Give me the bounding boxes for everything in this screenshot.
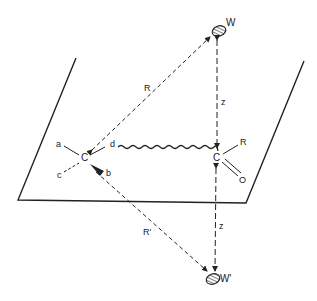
water-top-icon [211, 24, 228, 38]
wavy-chain [118, 146, 218, 152]
label-a: a [56, 140, 61, 149]
label-carbon-right: C [213, 153, 220, 163]
water-bottom-icon [205, 272, 222, 286]
bond-a [64, 146, 79, 155]
label-z-top: z [221, 98, 226, 107]
label-c: c [57, 171, 62, 180]
bond-R [223, 145, 238, 154]
distance-R-line [92, 37, 210, 150]
bond-c [64, 163, 79, 172]
label-distance-R-prime: R' [143, 228, 151, 237]
label-b: b [106, 169, 111, 178]
bond-d [90, 147, 105, 155]
label-carbon-left: C [81, 153, 88, 163]
distance-z-bottom-line [215, 168, 216, 271]
label-O: O [239, 176, 246, 185]
label-z-bottom: z [219, 222, 224, 231]
plane-outline [18, 58, 304, 203]
bond-O-1 [222, 162, 238, 176]
label-distance-R: R [144, 84, 151, 93]
label-R-substituent: R [240, 138, 247, 147]
diagram-graphics [0, 0, 317, 301]
label-W: W [226, 18, 235, 28]
diagram-canvas: W W' C C a b c d R O R R' z z [0, 0, 317, 301]
bond-O-2 [225, 159, 241, 173]
distance-R-prime-line [96, 172, 207, 271]
label-W-prime: W' [220, 274, 231, 284]
wedge-bond-b [90, 164, 104, 176]
label-d: d [110, 140, 115, 149]
